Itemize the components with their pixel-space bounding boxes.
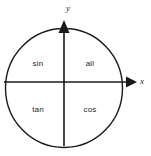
- x-axis-arrowhead-icon: [126, 77, 137, 88]
- cast-diagram-canvas: x y sin all tan cos: [0, 0, 151, 156]
- quadrant-label-tan: tan: [32, 105, 44, 114]
- cast-quadrant-diagram: x y sin all tan cos: [0, 0, 151, 156]
- quadrant-label-all: all: [86, 59, 95, 68]
- x-axis-label: x: [139, 76, 144, 86]
- quadrant-label-sin: sin: [33, 59, 44, 68]
- y-axis-arrowhead-icon: [59, 20, 70, 33]
- y-axis-label: y: [65, 3, 70, 13]
- quadrant-label-cos: cos: [83, 105, 96, 114]
